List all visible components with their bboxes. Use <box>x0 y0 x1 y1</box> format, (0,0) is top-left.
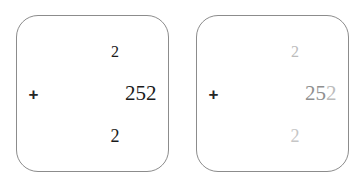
main-digit-1: 2 <box>305 81 316 105</box>
addition-card-right[interactable]: + 2 252 2 <box>196 15 349 172</box>
answer-digit-row: 2 <box>110 127 119 145</box>
plus-operator-icon: + <box>209 86 219 103</box>
main-digit-2: 5 <box>315 81 326 105</box>
card-content-right: + 2 252 2 <box>197 16 348 171</box>
carry-digit-row: 2 <box>291 44 299 60</box>
plus-operator-icon: + <box>29 86 39 103</box>
main-digit-3: 2 <box>146 81 157 105</box>
carry-digit-row: 2 <box>111 44 119 60</box>
sum-stack-right: 2 252 2 <box>252 44 336 145</box>
main-digit-1: 2 <box>125 81 136 105</box>
canvas: + 2 252 2 + 2 252 2 <box>0 0 363 188</box>
main-digit-2: 5 <box>135 81 146 105</box>
sum-stack-left: 2 252 2 <box>72 44 156 145</box>
addition-card-left[interactable]: + 2 252 2 <box>16 15 169 172</box>
main-digit-3: 2 <box>326 81 337 105</box>
card-content-left: + 2 252 2 <box>17 16 168 171</box>
answer-digit-row: 2 <box>290 127 299 145</box>
main-digit-row: 252 <box>252 62 336 125</box>
main-digit-row: 252 <box>72 62 156 125</box>
